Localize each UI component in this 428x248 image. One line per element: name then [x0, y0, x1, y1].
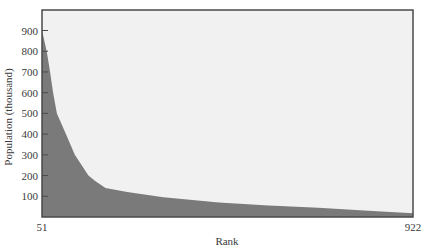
y-tick-label: 800: [22, 45, 39, 57]
y-axis-label: Population (thousand): [2, 68, 15, 166]
y-tick-label: 600: [22, 87, 39, 99]
y-tick-label: 300: [22, 149, 39, 161]
y-tick-label: 100: [22, 190, 39, 202]
y-tick-label: 200: [22, 170, 39, 182]
y-tick-label: 500: [22, 107, 39, 119]
x-axis-label: Rank: [215, 235, 239, 247]
x-tick-min: 51: [37, 221, 48, 233]
y-axis-ticks: 100200300400500600700800900: [22, 25, 49, 203]
x-tick-max: 922: [405, 221, 422, 233]
y-tick-label: 900: [22, 25, 39, 37]
y-tick-label: 400: [22, 128, 39, 140]
population-rank-chart: 100200300400500600700800900 51 922 Rank …: [0, 0, 428, 248]
y-tick-label: 700: [22, 66, 39, 78]
